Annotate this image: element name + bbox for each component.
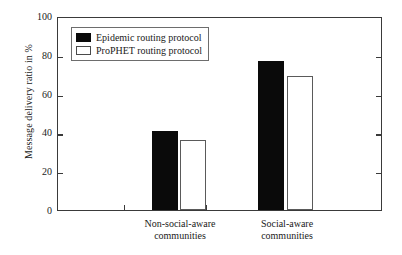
y-tick-mark-40 [58,134,63,135]
x-tick-mark-1 [206,205,207,210]
x-axis-label-line-1: communities [222,230,352,242]
y-tick-label-0: 0 [22,206,52,216]
bar-prophet-non-social-aware [180,140,206,210]
y-tick-mark-right-40 [376,134,381,135]
x-tick-mark-0 [124,205,125,210]
x-axis-label-line-0: Social-aware [222,218,352,230]
bar-chart: Message delivery ratio in % 100 80 60 40… [0,0,402,255]
legend: Epidemic routing protocol ProPHET routin… [71,27,209,61]
y-tick-label-60: 60 [22,90,52,100]
bar-epidemic-non-social-aware [152,131,178,211]
y-tick-label-100: 100 [22,12,52,22]
legend-label-epidemic: Epidemic routing protocol [96,32,202,43]
y-tick-mark-80 [58,57,63,58]
legend-item-epidemic: Epidemic routing protocol [76,31,202,44]
y-tick-mark-20 [58,173,63,174]
y-tick-label-20: 20 [22,167,52,177]
legend-swatch-hollow-icon [76,46,91,55]
bar-epidemic-social-aware [258,61,284,210]
legend-item-prophet: ProPHET routing protocol [76,44,202,57]
x-axis-label-social-aware: Social-aware communities [222,218,352,242]
y-tick-label-40: 40 [22,128,52,138]
legend-label-prophet: ProPHET routing protocol [96,45,202,56]
y-tick-mark-right-60 [376,96,381,97]
y-tick-mark-right-20 [376,173,381,174]
plot-area: Epidemic routing protocol ProPHET routin… [57,17,382,211]
bar-prophet-social-aware [287,76,313,210]
y-tick-mark-right-80 [376,57,381,58]
y-tick-label-80: 80 [22,51,52,61]
legend-swatch-filled-icon [76,33,91,42]
y-tick-mark-60 [58,96,63,97]
y-axis-tick-labels: 100 80 60 40 20 0 [22,0,52,255]
